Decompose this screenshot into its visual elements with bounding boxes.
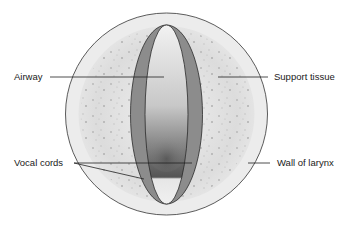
- airway: [145, 25, 188, 204]
- support-tissue-label: Support tissue: [274, 72, 335, 82]
- vocal-cords-label: Vocal cords: [14, 158, 63, 168]
- larynx-diagram: [0, 0, 348, 226]
- airway-shadow: [147, 128, 187, 172]
- airway-label: Airway: [14, 72, 43, 82]
- wall-of-larynx-label: Wall of larynx: [277, 158, 334, 168]
